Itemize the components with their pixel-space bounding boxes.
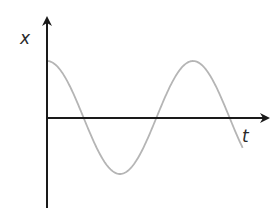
sinusoid-diagram: x t: [0, 0, 275, 213]
t-axis-label: t: [242, 126, 250, 146]
x-axis-label: x: [19, 28, 31, 48]
